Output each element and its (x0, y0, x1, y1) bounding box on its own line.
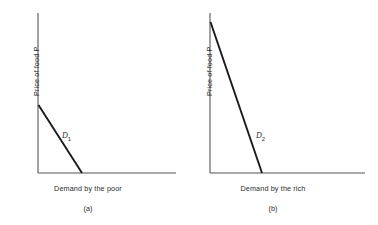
curve-label-d2-subscript: 2 (262, 136, 265, 142)
y-axis-label-b: Price of food P (205, 47, 214, 96)
x-axis-label-a: Demand by the poor (0, 184, 176, 193)
curve-label-d1-subscript: 1 (68, 136, 71, 142)
demand-curve-d1 (39, 105, 83, 173)
panel-caption-b: (b) (189, 204, 357, 213)
curve-label-d2: D2 (256, 131, 265, 142)
y-axis-label-a: Price of food P (32, 47, 41, 96)
demand-curve-d2 (211, 22, 263, 173)
panel-caption-a: (a) (0, 204, 176, 213)
panel-a: Price of food P D1 Demand by the poor (a… (0, 0, 189, 225)
panel-b: Price of food P D2 Demand by the rich (b… (189, 0, 378, 225)
x-axis-label-b: Demand by the rich (189, 184, 357, 193)
curve-label-d1: D1 (62, 131, 71, 142)
figure-two-panel-demand-curves: Price of food P D1 Demand by the poor (a… (0, 0, 378, 225)
